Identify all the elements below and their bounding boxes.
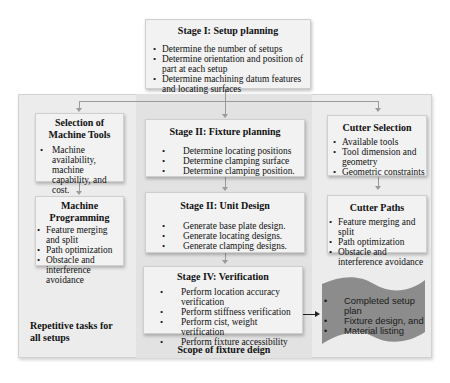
arrow-down-icon [375, 186, 381, 190]
machine-tools-selection-box: Selection of Machine Tools Machine avail… [35, 113, 124, 182]
list-item: Determine orientation and position of pa… [152, 54, 310, 74]
list-item: Machine availability, machine capability… [39, 145, 123, 195]
list-item: Determine clamping position. [150, 166, 304, 176]
list-item: Determine clamping surface [150, 156, 304, 166]
stage3-title: Stage II: Unit Design [146, 200, 304, 212]
list-item: Available tools [332, 137, 426, 147]
arrow-down-icon [222, 114, 228, 118]
list-item: Obstacle and interference avoidance [328, 247, 426, 267]
arrow-down-icon [375, 108, 381, 112]
list-item: Determine the number of setups [152, 44, 310, 54]
list-item: Generate clamping designs. [150, 241, 304, 251]
list-item: Feature merging and split [328, 217, 426, 237]
list-item: Perform cist, weight verification [148, 317, 302, 337]
list-item: Feature merging and split [36, 225, 123, 245]
stage2-fixture-planning-box: Stage II: Fixture planning Determine loc… [145, 119, 305, 177]
stage4-verification-box: Stage IV: Verification Perform location … [143, 266, 303, 334]
list-item: Path optimization [328, 237, 426, 247]
connector-to-output [302, 314, 316, 315]
cutter-paths-title: Cutter Paths [328, 202, 426, 214]
list-item: Material listing [322, 326, 426, 336]
list-item: Path optimization [36, 245, 123, 255]
cutter-selection-title: Cutter Selection [328, 122, 426, 134]
list-item: Generate base plate design. [150, 221, 304, 231]
arrow-down-icon [76, 108, 82, 112]
cutter-paths-box: Cutter Paths Feature merging and split P… [327, 195, 427, 253]
list-item: Generate locating designs. [150, 231, 304, 241]
scope-label: Scope of fixture deign [136, 344, 312, 356]
machine-programming-title: Machine Programming [36, 200, 123, 224]
repetitive-tasks-label: Repetitive tasks for all setups [30, 320, 120, 344]
machine-tools-title: Selection of Machine Tools [36, 117, 123, 141]
list-item: Perform location accuracy verification [148, 287, 302, 307]
list-item: Determine locating positions [150, 146, 304, 156]
stage1-title: Stage I: Setup planning [146, 25, 310, 37]
arrow-down-icon [222, 187, 228, 191]
machine-programming-box: Machine Programming Feature merging and … [35, 196, 124, 266]
list-item: Obstacle and interference avoidance [36, 255, 123, 285]
list-item: Geometric constraints [332, 167, 426, 177]
stage4-title: Stage IV: Verification [144, 271, 302, 283]
stage2-title: Stage II: Fixture planning [146, 126, 304, 138]
list-item: Perform stiffness verification [148, 307, 302, 317]
list-item: Tool dimension and geometry [332, 147, 426, 167]
cutter-selection-box: Cutter Selection Available tools Tool di… [327, 115, 427, 176]
output-document-text: Completed setup plan Fixture design, and… [322, 296, 426, 336]
list-item: Completed setup plan [322, 296, 426, 316]
stage1-setup-planning-box: Stage I: Setup planning Determine the nu… [145, 19, 311, 89]
stage3-unit-design-box: Stage II: Unit Design Generate base plat… [145, 192, 305, 253]
arrow-down-icon [222, 260, 228, 264]
list-item: Determine machining datum features and l… [152, 74, 310, 94]
connector-horizontal-split [79, 101, 378, 102]
